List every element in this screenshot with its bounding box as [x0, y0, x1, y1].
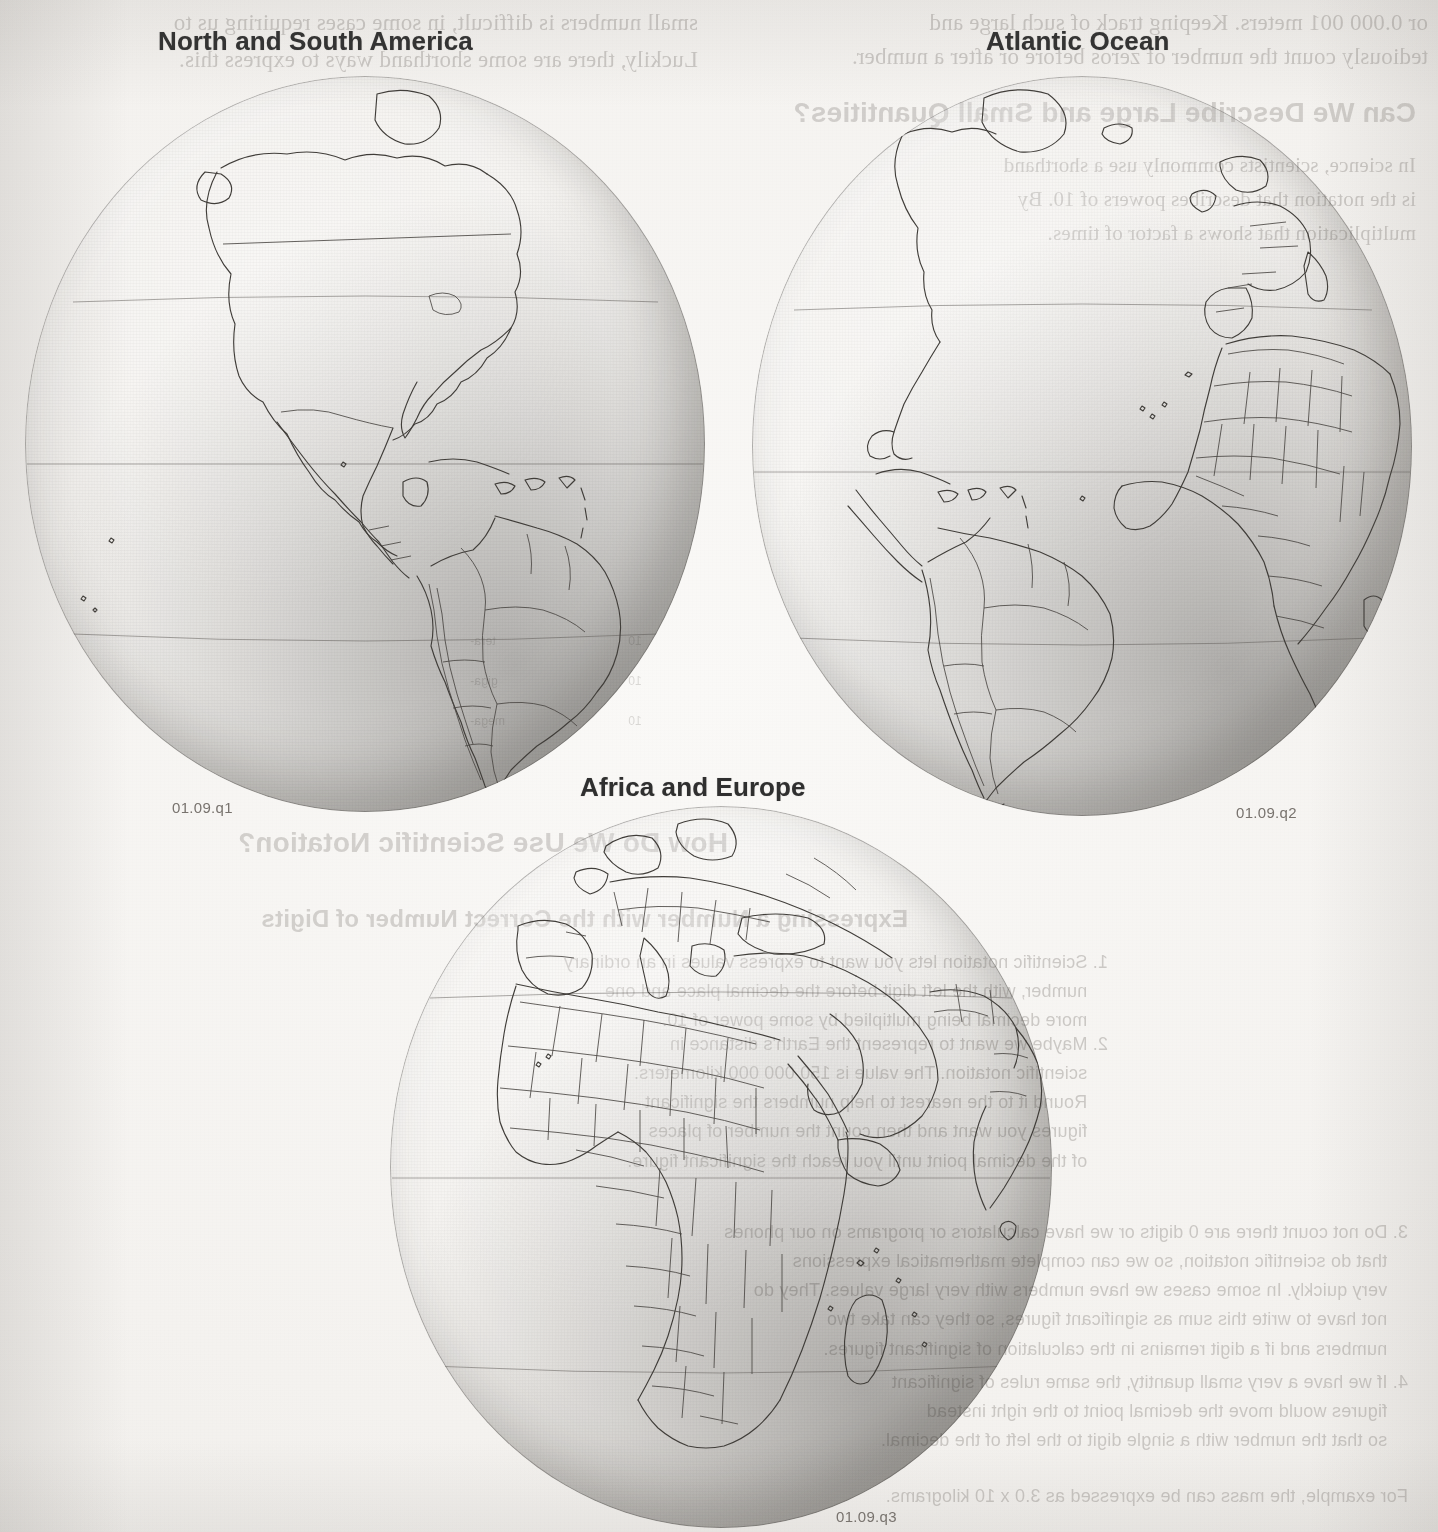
- figure-id-q2: 01.09.q2: [1236, 804, 1297, 821]
- scanned-page: small numbers is difficult, in some case…: [0, 0, 1438, 1532]
- figure-id-q3: 01.09.q3: [836, 1508, 897, 1525]
- globe-atlantic-ocean: [752, 76, 1412, 816]
- globe-rim: [390, 806, 1052, 1528]
- figure-title-africa-europe: Africa and Europe: [580, 772, 806, 803]
- globe-north-south-america: [25, 76, 705, 812]
- globe-rim: [752, 76, 1412, 816]
- globe-rim: [25, 76, 705, 812]
- figure-title-atlantic-ocean: Atlantic Ocean: [986, 26, 1169, 57]
- globe-africa-europe: [390, 806, 1052, 1528]
- figure-id-q1: 01.09.q1: [172, 799, 233, 816]
- figure-title-north-south-america: North and South America: [158, 26, 473, 57]
